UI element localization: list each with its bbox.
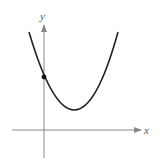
- parabola-graph: x y: [0, 0, 166, 163]
- parabola-curve: [29, 32, 118, 110]
- x-axis-label: x: [143, 124, 149, 136]
- y-intercept-point: [42, 75, 47, 80]
- y-axis-label: y: [39, 10, 45, 22]
- plot-area: x y: [0, 0, 166, 163]
